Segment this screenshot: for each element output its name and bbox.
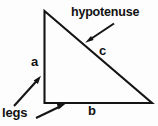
legs-arrow-horizontal: [36, 103, 65, 118]
legs-label: legs: [2, 106, 27, 119]
triangle-diagram: hypotenuse a b c legs: [0, 0, 158, 126]
hypotenuse-label: hypotenuse: [71, 6, 139, 19]
hypotenuse-arrow: [85, 24, 114, 43]
legs-arrow-vertical: [14, 76, 41, 106]
side-b-label: b: [88, 104, 96, 117]
side-c-label: c: [99, 44, 106, 57]
side-a-label: a: [31, 55, 38, 68]
